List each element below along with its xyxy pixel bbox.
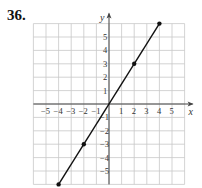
data-point — [157, 21, 161, 25]
y-tick-label: 3 — [103, 59, 107, 69]
x-tick-label: 5 — [170, 106, 174, 116]
x-tick-label: −2 — [79, 106, 88, 116]
x-tick-label: −4 — [54, 106, 64, 116]
coordinate-plane: xy−5−4−3−2−112345−5−4−3−2−112345 — [0, 0, 202, 188]
x-tick-label: −5 — [41, 106, 50, 116]
y-tick-label: −4 — [100, 153, 110, 163]
x-tick-label: 3 — [144, 106, 148, 116]
y-tick-label: 5 — [103, 32, 107, 42]
y-tick-label: −2 — [100, 126, 109, 136]
x-tick-label: 4 — [157, 106, 162, 116]
data-point — [56, 182, 60, 186]
y-tick-label: 1 — [103, 86, 107, 96]
x-tick-label: 2 — [132, 106, 136, 116]
y-axis-label: y — [99, 12, 105, 23]
y-tick-label: −3 — [100, 139, 109, 149]
y-tick-label: −5 — [100, 166, 109, 176]
x-tick-label: −3 — [66, 106, 75, 116]
data-point — [132, 62, 136, 66]
x-tick-label: 1 — [119, 106, 123, 116]
data-point — [82, 142, 86, 146]
y-tick-label: 2 — [103, 72, 107, 82]
x-axis-label: x — [188, 106, 194, 117]
